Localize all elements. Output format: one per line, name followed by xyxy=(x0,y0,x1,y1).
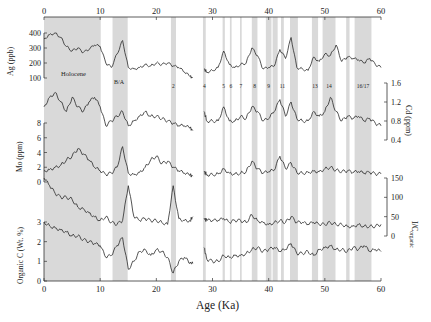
y-tick-label: 400 xyxy=(29,29,41,38)
x-tick-label: 40 xyxy=(264,6,273,16)
y-tick-label: 0 xyxy=(37,178,41,187)
x-tick-label: 20 xyxy=(152,284,161,294)
ic-axis-label: I/Corganic xyxy=(409,221,419,248)
shaded-band xyxy=(281,17,284,281)
x-tick-label: 40 xyxy=(264,284,273,294)
y-tick-label: 50 xyxy=(391,213,399,222)
paleo-geochemistry-figure: 245678911131416/17 010203040506001020304… xyxy=(0,0,431,322)
y-tick-label: 0.8 xyxy=(391,117,401,126)
y-tick-label: 0 xyxy=(37,277,41,286)
shaded-band xyxy=(312,17,318,281)
x-axis-title: Age (Ka) xyxy=(196,299,239,312)
y-tick-label: 100 xyxy=(29,74,41,83)
y-tick-label: 200 xyxy=(29,59,41,68)
ag-axis-label: Ag (ppb) xyxy=(6,47,15,76)
band-number-label: 16/17 xyxy=(357,83,370,89)
ic-axis-sub: organic xyxy=(409,231,415,248)
shaded-band xyxy=(44,17,101,281)
x-tick-label: 30 xyxy=(208,6,217,16)
y-tick-label: 3 xyxy=(37,218,41,227)
shaded-band xyxy=(171,17,176,281)
y-tick-label: 1.6 xyxy=(391,79,401,88)
orgc-axis-label: Organic C (Wt. %) xyxy=(16,227,25,284)
x-tick-label: 0 xyxy=(42,6,46,16)
y-tick-label: 0.4 xyxy=(391,136,401,145)
x-tick-label: 60 xyxy=(377,284,386,294)
shaded-band xyxy=(203,17,206,281)
band-number-label: 8 xyxy=(253,83,256,89)
ba-label: B/A xyxy=(114,79,125,85)
band-number-label: 5 xyxy=(222,83,225,89)
y-tick-label: 300 xyxy=(29,44,41,53)
y-tick-label: 100 xyxy=(391,193,403,202)
shaded-band xyxy=(355,17,372,281)
y-tick-label: 0 xyxy=(391,232,395,241)
band-number-label: 7 xyxy=(239,83,242,89)
x-tick-label: 60 xyxy=(377,6,386,16)
band-number-label: 11 xyxy=(280,83,286,89)
band-number-label: 14 xyxy=(326,83,332,89)
y-tick-label: 2 xyxy=(37,163,41,172)
shaded-band xyxy=(223,17,225,281)
x-tick-label: 30 xyxy=(208,284,217,294)
mo-axis-label: Mo (ppm) xyxy=(15,141,24,172)
y-tick-label: 8 xyxy=(37,119,41,128)
shaded-intervals: 245678911131416/17 xyxy=(44,17,371,281)
y-tick-label: 2 xyxy=(37,238,41,247)
band-number-label: 13 xyxy=(312,83,318,89)
ic-axis-main: I/C xyxy=(410,221,419,231)
x-tick-label: 10 xyxy=(96,6,105,16)
x-tick-label: 50 xyxy=(321,284,330,294)
shaded-band xyxy=(230,17,232,281)
y-tick-label: 150 xyxy=(391,174,403,183)
holocene-label: Holocene xyxy=(61,70,86,77)
y-tick-label: 1 xyxy=(37,257,41,266)
y-tick-label: 6 xyxy=(37,134,41,143)
shaded-band xyxy=(290,17,298,281)
band-number-label: 9 xyxy=(267,83,270,89)
shaded-band xyxy=(266,17,272,281)
cd-axis-label: Cd (ppm) xyxy=(404,105,413,136)
x-tick-label: 10 xyxy=(96,284,105,294)
band-number-label: 6 xyxy=(229,83,232,89)
x-tick-label: 20 xyxy=(152,6,161,16)
shaded-band xyxy=(323,17,336,281)
y-tick-label: 1.2 xyxy=(391,98,401,107)
y-tick-label: 4 xyxy=(37,149,41,158)
shaded-band xyxy=(240,17,242,281)
x-tick-label: 0 xyxy=(42,284,46,294)
x-tick-label: 50 xyxy=(321,6,330,16)
band-number-label: 2 xyxy=(172,83,175,89)
band-number-label: 4 xyxy=(203,83,206,89)
shaded-band xyxy=(252,17,258,281)
